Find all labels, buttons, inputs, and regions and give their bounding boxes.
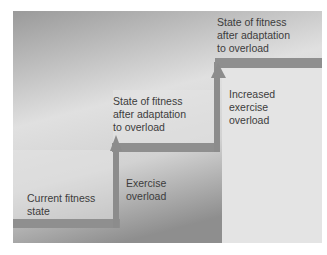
label-line: overload [126,190,166,203]
current-fitness-state-label: Current fitness state [27,192,95,218]
label-line: to overload [217,42,290,55]
exercise-overload-label: Exercise overload [126,177,166,203]
label-line: Exercise [126,177,166,190]
state-after-adaptation-2-label: State of fitness after adaptation to ove… [217,16,290,55]
increased-exercise-overload-label: Increased exercise overload [229,88,275,127]
label-line: after adaptation [217,29,290,42]
label-line: after adaptation [113,108,186,121]
step-1-edge [13,219,120,228]
state-after-adaptation-1-label: State of fitness after adaptation to ove… [113,95,186,134]
increased-overload-arrow-shaft [214,76,220,152]
label-line: Increased [229,88,275,101]
label-line: overload [229,114,275,127]
label-line: State of fitness [217,16,290,29]
label-line: Current fitness [27,192,95,205]
step-2-edge [112,143,219,152]
label-line: state [27,205,95,218]
label-line: to overload [113,121,186,134]
step-3-edge [215,58,322,68]
exercise-overload-arrow-shaft [113,149,119,228]
label-line: exercise [229,101,275,114]
label-line: State of fitness [113,95,186,108]
